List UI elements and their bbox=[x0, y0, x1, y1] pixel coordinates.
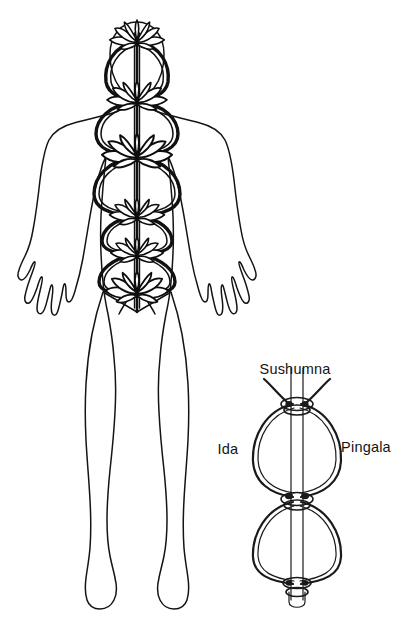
detail-node-lower-left bbox=[286, 580, 293, 586]
detail-node-middle-right bbox=[301, 493, 309, 499]
detail-pingala-upper-lens bbox=[301, 404, 341, 497]
detail-node-middle-left bbox=[285, 493, 293, 499]
label-ida: Ida bbox=[218, 441, 239, 457]
detail-pingala-top-tail bbox=[307, 379, 330, 402]
detail-ida-upper-lens bbox=[253, 404, 293, 497]
nadi-chakra-illustration: Sushumna Ida Pingala bbox=[0, 0, 408, 636]
detail-node-upper-left bbox=[285, 401, 292, 407]
detail-pingala-upper-lens-inner bbox=[300, 408, 336, 493]
detail-node-upper-right bbox=[301, 401, 308, 407]
detail-ida-top-tail bbox=[264, 379, 287, 402]
label-pingala: Pingala bbox=[341, 439, 392, 455]
detail-pingala-lower-lens-inner bbox=[300, 506, 336, 581]
nadi-detail-diagram: Sushumna Ida Pingala bbox=[218, 361, 392, 607]
label-sushumna: Sushumna bbox=[260, 361, 332, 377]
detail-ida-lower-lens-inner bbox=[258, 506, 294, 581]
illustration-canvas: Sushumna Ida Pingala bbox=[0, 0, 408, 636]
detail-node-lower-right bbox=[302, 580, 309, 586]
detail-ida-upper-lens-inner bbox=[258, 408, 294, 493]
